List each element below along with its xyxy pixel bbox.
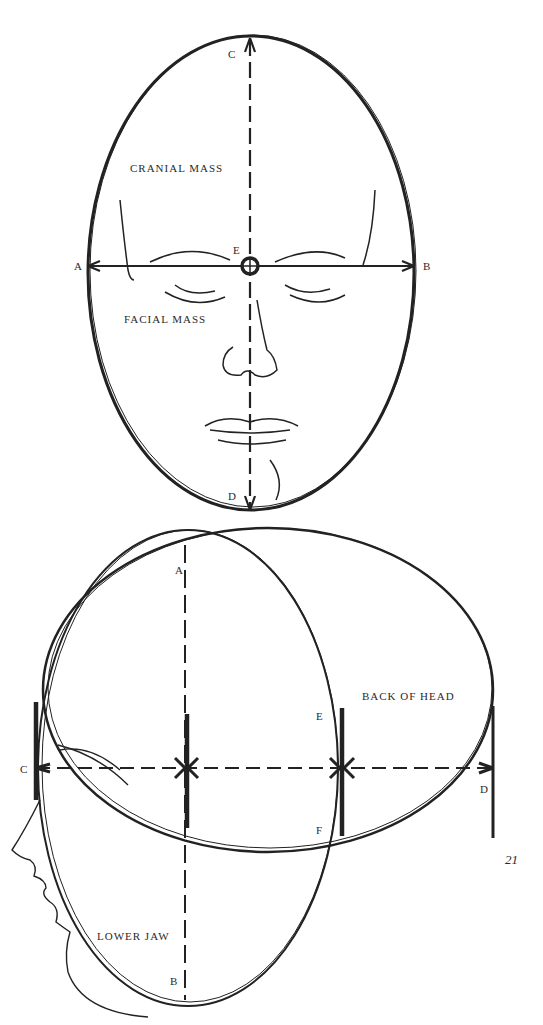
- label-side-a: A: [175, 564, 183, 576]
- label-cranial-mass: CRANIAL MASS: [130, 162, 223, 174]
- label-front-b: B: [423, 260, 430, 272]
- label-side-b: B: [170, 975, 177, 987]
- label-side-c: C: [20, 763, 27, 775]
- label-front-d: D: [228, 490, 236, 502]
- face-features: [120, 190, 375, 500]
- label-side-f: F: [316, 824, 322, 836]
- label-side-e: E: [316, 710, 323, 722]
- head-proportions-diagram: CRANIAL MASS FACIAL MASS A B C D E BACK …: [0, 0, 543, 1025]
- label-lower-jaw: LOWER JAW: [97, 930, 170, 942]
- label-front-a: A: [74, 260, 82, 272]
- label-facial-mass: FACIAL MASS: [124, 313, 206, 325]
- side-view: [12, 528, 493, 1017]
- label-front-c: C: [228, 48, 235, 60]
- page-number: 21: [505, 852, 518, 867]
- label-front-e: E: [233, 244, 240, 256]
- front-view: [88, 35, 416, 510]
- label-side-d: D: [480, 783, 488, 795]
- label-back-of-head: BACK OF HEAD: [362, 690, 455, 702]
- profile-features: [12, 745, 148, 1017]
